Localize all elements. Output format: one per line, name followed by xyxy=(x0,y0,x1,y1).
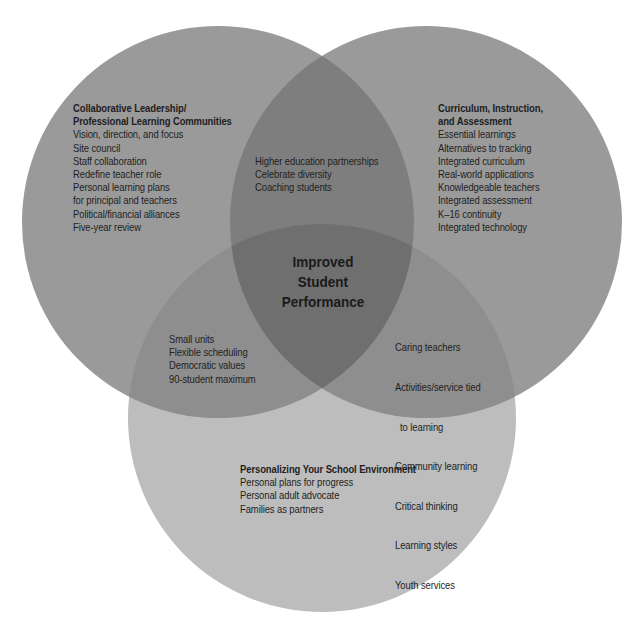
list-item: Democratic values xyxy=(169,359,256,372)
list-item: Caring teachers xyxy=(395,341,481,354)
list-item: Personal adult advocate xyxy=(240,489,416,502)
list-item: Redefine teacher role xyxy=(73,168,232,181)
list-item: Knowledgeable teachers xyxy=(438,181,543,194)
right-circle-text: Curriculum, Instruction, and Assessment … xyxy=(438,102,543,234)
center-line-1: Improved xyxy=(274,252,373,272)
bottom-circle-text: Personalizing Your School Environment Pe… xyxy=(240,463,416,516)
list-item: Celebrate diversity xyxy=(255,168,378,181)
list-item: Five-year review xyxy=(73,221,232,234)
list-item: K–16 continuity xyxy=(438,208,543,221)
list-item: Learning styles xyxy=(395,539,481,552)
list-item: Families as partners xyxy=(240,503,416,516)
venn-diagram xyxy=(0,0,633,640)
right-circle-title-line-2: and Assessment xyxy=(438,115,543,128)
list-item: Activities/service tied xyxy=(395,381,481,394)
list-item: Flexible scheduling xyxy=(169,346,256,359)
list-item: Small units xyxy=(169,333,256,346)
overlap-right-bottom-text: Caring teachers Activities/service tied … xyxy=(395,315,481,605)
overlap-left-right-text: Higher education partnerships Celebrate … xyxy=(255,155,378,195)
list-item: Essential learnings xyxy=(438,128,543,141)
list-item: Real-world applications xyxy=(438,168,543,181)
list-item: Personal plans for progress xyxy=(240,476,416,489)
list-item: Higher education partnerships xyxy=(255,155,378,168)
list-item: Political/financial alliances xyxy=(73,208,232,221)
list-item: Alternatives to tracking xyxy=(438,142,543,155)
right-circle-title-line-1: Curriculum, Instruction, xyxy=(438,102,543,115)
list-item: Staff collaboration xyxy=(73,155,232,168)
list-item: 90-student maximum xyxy=(169,373,256,386)
list-item: Integrated assessment xyxy=(438,194,543,207)
center-label: Improved Student Performance xyxy=(274,252,373,312)
list-item: Site council xyxy=(73,142,232,155)
left-circle-title-line-1: Collaborative Leadership/ xyxy=(73,102,232,115)
list-item: Integrated technology xyxy=(438,221,543,234)
list-item: Vision, direction, and focus xyxy=(73,128,232,141)
bottom-circle-title: Personalizing Your School Environment xyxy=(240,463,416,476)
list-item: for principal and teachers xyxy=(73,194,232,207)
list-item: Youth services xyxy=(395,579,481,592)
left-circle-text: Collaborative Leadership/ Professional L… xyxy=(73,102,232,234)
list-item: to learning xyxy=(395,421,481,434)
left-circle-title-line-2: Professional Learning Communities xyxy=(73,115,232,128)
center-line-2: Student xyxy=(274,272,373,292)
list-item: Personal learning plans xyxy=(73,181,232,194)
list-item: Integrated curriculum xyxy=(438,155,543,168)
overlap-left-bottom-text: Small units Flexible scheduling Democrat… xyxy=(169,333,256,386)
center-line-3: Performance xyxy=(274,292,373,312)
list-item: Coaching students xyxy=(255,181,378,194)
